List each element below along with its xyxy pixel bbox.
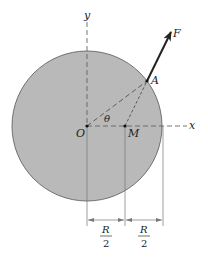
x-axis-label: x bbox=[189, 119, 196, 132]
diagram-canvas: y x O M A F θ R 2 R 2 bbox=[0, 0, 208, 257]
dimension-label-2: R 2 bbox=[138, 224, 150, 249]
origin-label: O bbox=[76, 127, 85, 140]
dimension-label-1: R 2 bbox=[100, 224, 112, 249]
midpoint-label: M bbox=[127, 127, 140, 140]
point-o bbox=[85, 124, 88, 127]
angle-label: θ bbox=[104, 113, 110, 124]
dimension-1-denominator: 2 bbox=[103, 238, 109, 249]
dimension-2-denominator: 2 bbox=[141, 238, 147, 249]
force-label: F bbox=[172, 27, 181, 40]
point-a-label: A bbox=[150, 74, 159, 87]
point-m bbox=[123, 124, 126, 127]
y-axis-label: y bbox=[83, 9, 91, 22]
point-a bbox=[145, 79, 148, 82]
dimension-1-numerator: R bbox=[101, 224, 110, 235]
dimension-2-numerator: R bbox=[139, 224, 148, 235]
